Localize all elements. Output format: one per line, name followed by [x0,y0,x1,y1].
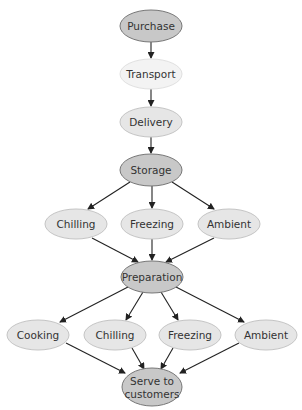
node-preparation: Preparation [121,261,183,293]
arrow-freezing2-to-serve [161,348,173,369]
node-label: Chilling [57,218,96,230]
flow-diagram: PurchaseTransportDeliveryStorageChilling… [0,0,302,410]
node-cooking: Cooking [7,320,69,350]
node-delivery: Delivery [120,107,182,137]
node-label: Chilling [96,329,135,341]
arrow-chilling1-to-preparation [92,238,138,262]
node-chilling2: Chilling [84,320,146,350]
node-label: Delivery [129,116,173,128]
edges-group [60,42,244,373]
node-label: Ambient [244,329,288,341]
arrow-storage-to-chilling1 [88,182,130,209]
node-freezing1: Freezing [121,209,183,239]
node-label: Ambient [207,218,251,230]
arrow-ambient1-to-preparation [166,238,214,262]
arrow-preparation-to-cooking [60,287,128,322]
node-shape [122,368,182,406]
node-purchase: Purchase [120,10,182,42]
node-freezing2: Freezing [159,320,221,350]
node-chilling1: Chilling [45,209,107,239]
node-label: Serve to [130,375,174,387]
arrow-preparation-to-freezing2 [161,292,178,320]
node-label: Freezing [130,218,174,230]
node-ambient1: Ambient [198,209,260,239]
arrow-preparation-to-ambient2 [176,287,244,322]
node-label: Storage [130,164,171,176]
node-storage: Storage [120,154,182,186]
node-ambient2: Ambient [235,320,297,350]
node-label-line2: customers [125,388,180,400]
arrow-chilling2-to-serve [132,348,144,369]
arrow-preparation-to-chilling2 [126,292,143,320]
node-label: Freezing [168,329,212,341]
node-label: Purchase [127,20,175,32]
node-serve: Serve tocustomers [122,368,182,406]
node-label: Cooking [17,329,60,341]
node-label: Preparation [122,271,183,283]
node-transport: Transport [120,59,182,89]
node-label: Transport [125,68,175,80]
arrow-storage-to-ambient1 [172,182,214,209]
